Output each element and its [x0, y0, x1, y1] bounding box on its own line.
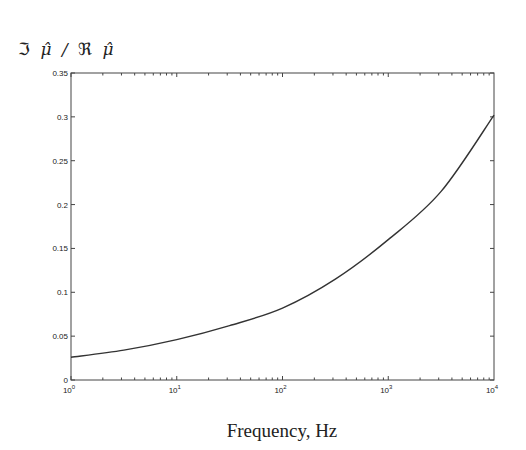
plot-axes — [71, 73, 494, 380]
axis-ticks — [71, 73, 494, 380]
y-axis-label-text: ℑ μ̂ / ℜ μ̂ — [18, 39, 113, 59]
y-tick-label: 0.15 — [52, 244, 68, 253]
x-tick-label: 101 — [169, 384, 182, 395]
x-tick-label: 104 — [486, 384, 499, 395]
plot-frame — [71, 73, 494, 380]
data-line — [71, 115, 494, 357]
x-tick-label: 102 — [274, 384, 287, 395]
x-tick-label: 103 — [380, 384, 393, 395]
y-tick-label: 0.05 — [52, 332, 68, 341]
y-tick-label: 0.35 — [52, 69, 68, 78]
y-tick-label: 0.25 — [52, 157, 68, 166]
chart: ℑ μ̂ / ℜ μ̂ 00.050.10.150.20.250.30.3510… — [0, 0, 526, 450]
y-tick-label: 0.1 — [57, 288, 69, 297]
y-axis-label: ℑ μ̂ / ℜ μ̂ — [18, 39, 113, 59]
y-tick-label: 0.2 — [57, 201, 69, 210]
x-axis-label: Frequency, Hz — [227, 420, 338, 441]
y-tick-label: 0 — [64, 376, 69, 385]
x-tick-label: 100 — [63, 384, 76, 395]
axis-tick-labels: 00.050.10.150.20.250.30.3510010110210310… — [52, 69, 498, 395]
y-tick-label: 0.3 — [57, 113, 69, 122]
